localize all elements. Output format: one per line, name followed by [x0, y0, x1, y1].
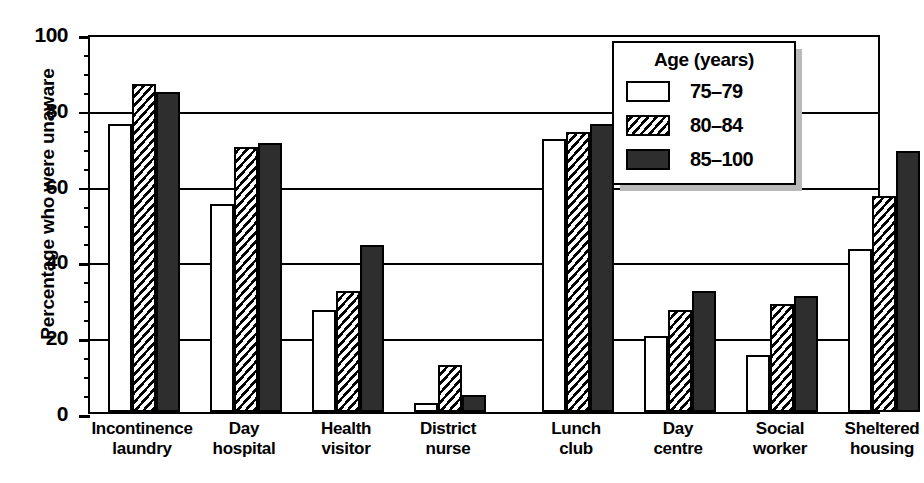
bar-2-80–84: [234, 147, 258, 412]
bar-4-75–79: [414, 403, 438, 412]
bar-5-80–84: [566, 132, 590, 412]
bar-1-85–100: [156, 92, 180, 412]
bar-5-75–79: [542, 139, 566, 412]
bar-3-75–79: [312, 310, 336, 412]
bar-7-80–84: [770, 304, 794, 412]
legend-swatch-solid: [626, 149, 670, 170]
bar-8-85–100: [896, 151, 920, 413]
x-label-line: nurse: [378, 439, 518, 459]
bar-1-75–79: [108, 124, 132, 412]
legend-swatch-white: [626, 81, 670, 102]
bar-7-85–100: [794, 296, 818, 412]
y-tick-label-100: 100: [16, 23, 68, 47]
y-tick-label-40: 40: [16, 250, 68, 274]
y-tickmark-40: [79, 263, 90, 266]
bar-4-85–100: [462, 395, 486, 412]
y-tick-label-80: 80: [16, 99, 68, 123]
y-tick-label-60: 60: [16, 175, 68, 199]
y-tickmark-20: [79, 339, 90, 342]
legend-label: 75–79: [690, 77, 743, 105]
legend-label: 80–84: [690, 111, 743, 139]
bar-6-85–100: [692, 291, 716, 412]
bar-6-80–84: [668, 310, 692, 412]
bar-2-85–100: [258, 143, 282, 412]
legend-title: Age (years): [614, 49, 794, 71]
legend-swatch-hatch: [626, 115, 670, 136]
y-tick-label-20: 20: [16, 326, 68, 350]
bar-3-85–100: [360, 245, 384, 412]
y-axis-tick-labels: 020406080100: [10, 0, 68, 483]
legend: Age (years) 75–7980–8485–100: [612, 41, 796, 185]
x-label-8: Shelteredhousing: [812, 419, 924, 459]
y-tickmark-60: [79, 188, 90, 191]
x-label-4: Districtnurse: [378, 419, 518, 459]
y-tickmark-100: [79, 36, 90, 39]
legend-label: 85–100: [690, 145, 753, 173]
bar-8-80–84: [872, 196, 896, 412]
bar-5-85–100: [590, 124, 614, 412]
bar-7-75–79: [746, 355, 770, 412]
legend-entry-80–84: 80–84: [626, 111, 786, 139]
bar-1-80–84: [132, 84, 156, 412]
bar-3-80–84: [336, 291, 360, 412]
y-tickmark-80: [79, 112, 90, 115]
bar-6-75–79: [644, 336, 668, 412]
bar-4-80–84: [438, 365, 462, 412]
legend-entry-85–100: 85–100: [626, 145, 786, 173]
x-label-line: District: [378, 419, 518, 439]
y-tick-label-0: 0: [16, 402, 68, 426]
legend-entry-75–79: 75–79: [626, 77, 786, 105]
bar-2-75–79: [210, 204, 234, 412]
x-label-line: Sheltered: [812, 419, 924, 439]
bar-8-75–79: [848, 249, 872, 412]
y-tickmark-0: [79, 415, 90, 418]
x-label-line: housing: [812, 439, 924, 459]
